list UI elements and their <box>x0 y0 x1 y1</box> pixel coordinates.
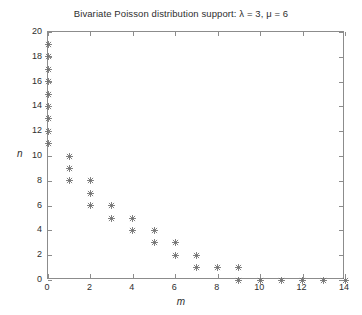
y-tick-right <box>339 255 343 256</box>
x-tick-top <box>175 32 176 36</box>
x-tick-top <box>260 32 261 36</box>
y-tick-left <box>48 106 52 107</box>
y-tick-label: 4 <box>2 224 42 234</box>
scatter-points-layer <box>48 32 343 278</box>
scatter-point <box>45 140 52 147</box>
y-tick-left <box>48 181 52 182</box>
y-tick-left <box>48 57 52 58</box>
x-tick-label: 10 <box>254 282 264 292</box>
y-tick-right <box>339 131 343 132</box>
y-tick-right <box>339 230 343 231</box>
x-axis-title: m <box>0 296 362 307</box>
x-tick-label: 14 <box>339 282 349 292</box>
scatter-point <box>66 165 73 172</box>
scatter-point <box>87 202 94 209</box>
scatter-point <box>66 153 73 160</box>
scatter-point <box>87 177 94 184</box>
y-tick-left <box>48 280 52 281</box>
y-tick-left <box>48 230 52 231</box>
x-tick-label: 8 <box>214 282 219 292</box>
y-tick-label: 14 <box>2 100 42 110</box>
y-tick-right <box>339 57 343 58</box>
y-tick-left <box>48 255 52 256</box>
scatter-point <box>45 66 52 73</box>
y-tick-label: 6 <box>2 200 42 210</box>
scatter-point <box>320 277 327 284</box>
scatter-point <box>108 215 115 222</box>
scatter-point <box>172 239 179 246</box>
y-tick-left <box>48 32 52 33</box>
x-tick-label: 2 <box>87 282 92 292</box>
y-tick-label: 18 <box>2 51 42 61</box>
x-tick-bottom <box>133 274 134 278</box>
scatter-point <box>87 190 94 197</box>
y-tick-label: 10 <box>2 150 42 160</box>
scatter-point <box>172 252 179 259</box>
scatter-point <box>66 177 73 184</box>
x-tick-top <box>218 32 219 36</box>
x-tick-top <box>90 32 91 36</box>
plot-area <box>47 31 344 279</box>
y-tick-right <box>339 82 343 83</box>
x-tick-bottom <box>218 274 219 278</box>
x-tick-label: 4 <box>129 282 134 292</box>
x-tick-bottom <box>48 274 49 278</box>
scatter-point <box>214 264 221 271</box>
x-tick-top <box>133 32 134 36</box>
chart-title: Bivariate Poisson distribution support: … <box>0 8 362 19</box>
scatter-point <box>129 215 136 222</box>
y-tick-label: 8 <box>2 175 42 185</box>
y-tick-right <box>339 106 343 107</box>
scatter-point <box>151 227 158 234</box>
y-tick-right <box>339 280 343 281</box>
scatter-point <box>278 277 285 284</box>
scatter-point <box>193 252 200 259</box>
y-tick-right <box>339 32 343 33</box>
x-tick-bottom <box>345 274 346 278</box>
x-tick-label: 0 <box>44 282 49 292</box>
x-tick-bottom <box>260 274 261 278</box>
y-tick-label: 16 <box>2 76 42 86</box>
y-tick-label: 20 <box>2 26 42 36</box>
scatter-point <box>235 277 242 284</box>
scatter-point <box>193 264 200 271</box>
y-tick-right <box>339 156 343 157</box>
y-tick-label: 0 <box>2 274 42 284</box>
x-tick-top <box>345 32 346 36</box>
scatter-point <box>129 227 136 234</box>
scatter-point <box>45 41 52 48</box>
y-tick-left <box>48 206 52 207</box>
y-tick-label: 2 <box>2 249 42 259</box>
y-tick-left <box>48 82 52 83</box>
x-tick-bottom <box>303 274 304 278</box>
x-tick-label: 12 <box>297 282 307 292</box>
y-tick-left <box>48 156 52 157</box>
y-tick-left <box>48 131 52 132</box>
figure-container: Bivariate Poisson distribution support: … <box>0 0 362 315</box>
x-tick-label: 6 <box>172 282 177 292</box>
y-tick-right <box>339 181 343 182</box>
x-tick-bottom <box>90 274 91 278</box>
scatter-point <box>45 115 52 122</box>
scatter-point <box>45 91 52 98</box>
y-tick-label: 12 <box>2 125 42 135</box>
x-tick-bottom <box>175 274 176 278</box>
scatter-point <box>108 202 115 209</box>
scatter-point <box>151 239 158 246</box>
x-tick-top <box>303 32 304 36</box>
y-tick-right <box>339 206 343 207</box>
scatter-point <box>235 264 242 271</box>
